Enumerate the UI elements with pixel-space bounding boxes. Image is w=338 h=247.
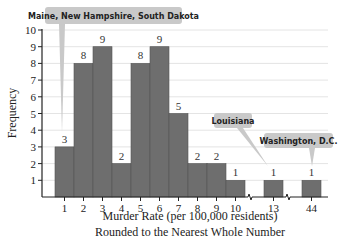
bar-value-label: 8: [81, 49, 87, 61]
bar-value-label: 9: [100, 33, 106, 45]
bar-value-label: 8: [138, 49, 144, 61]
axis-break-icon: [286, 194, 290, 200]
bar-44: [302, 180, 321, 197]
callout-pointer: [59, 24, 65, 133]
x-axis-label-line2: Rounded to the Nearest Whole Number: [95, 225, 285, 239]
y-axis-label: Frequency: [5, 88, 19, 139]
x-axis-label: Murder Rate (per 100,000 residents): [103, 209, 278, 223]
bar-value-label: 2: [195, 150, 201, 162]
bar-7: [169, 114, 188, 198]
callout-text: Washington, D.C.: [260, 137, 338, 146]
y-tick-label: 5: [31, 108, 37, 120]
bars: 389289522111: [55, 33, 321, 197]
y-tick-label: 3: [31, 141, 37, 153]
bar-13: [264, 180, 283, 197]
bar-value-label: 1: [233, 166, 239, 178]
bar-4: [112, 164, 131, 197]
bar-value-label: 5: [176, 100, 182, 112]
y-tick-label: 6: [31, 91, 37, 103]
y-tick-label: 7: [31, 74, 37, 86]
bar-2: [74, 63, 93, 197]
bar-value-label: 2: [214, 150, 220, 162]
y-tick-label: 10: [25, 24, 37, 36]
y-tick-label: 8: [31, 57, 37, 69]
bar-1: [55, 147, 74, 197]
callout-text: Maine, New Hampshire, South Dakota: [28, 12, 199, 21]
y-tick-label: 1: [31, 174, 37, 186]
x-tick-label: 1: [62, 202, 68, 214]
bar-value-label: 9: [157, 33, 163, 45]
bar-3: [93, 47, 112, 197]
x-tick-label: 44: [306, 202, 318, 214]
bar-5: [131, 63, 150, 197]
y-tick-label: 9: [31, 41, 37, 53]
bar-value-label: 1: [309, 166, 315, 178]
bar-9: [207, 164, 226, 197]
y-tick-label: 4: [31, 124, 37, 136]
bar-8: [188, 164, 207, 197]
axis-break-icon: [248, 194, 252, 200]
bar-value-label: 1: [271, 166, 277, 178]
bar-6: [150, 47, 169, 197]
bar-value-label: 2: [119, 150, 125, 162]
x-tick-label: 2: [81, 202, 87, 214]
bar-10: [226, 180, 245, 197]
bar-value-label: 3: [62, 133, 68, 145]
histogram-chart: 389289522111 12345678910123456789101344 …: [0, 0, 338, 247]
y-tick-label: 2: [31, 158, 37, 170]
callout-text: Louisiana: [211, 117, 254, 126]
